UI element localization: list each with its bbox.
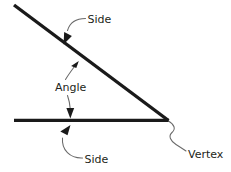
side-top-label: Side	[88, 13, 112, 26]
side-top-arrowhead	[64, 32, 72, 45]
side-top-callout: Side	[64, 13, 112, 45]
vertex-label: Vertex	[188, 148, 224, 161]
angle-label: Angle	[55, 81, 87, 94]
side-bottom-label: Side	[85, 153, 109, 166]
side-bottom-leader-line	[62, 138, 82, 158]
angle-diagram: Side Angle Side Vertex	[0, 0, 231, 172]
side-top-leader-line	[68, 19, 86, 31]
angle-upper-arrowhead	[71, 61, 79, 68]
diagram-canvas: Side Angle Side Vertex	[0, 0, 231, 172]
side-bottom-arrowhead	[60, 125, 70, 135]
angle-upper-leader-line	[66, 67, 75, 80]
side-bottom-callout: Side	[60, 125, 108, 166]
angle-lower-arrowhead	[66, 108, 74, 119]
angle-lower-leader-line	[68, 96, 71, 109]
angle-callout-lower	[66, 96, 74, 119]
angle-callout-upper	[66, 61, 79, 80]
vertex-leader-line	[169, 121, 187, 151]
vertex-callout: Vertex	[169, 121, 224, 161]
